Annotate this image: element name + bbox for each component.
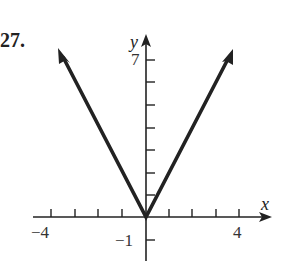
y-tick-label-neg1: −1 (115, 231, 133, 250)
x-tick-label-neg4: −4 (31, 223, 50, 242)
x-axis: x −4 4 (31, 194, 272, 242)
graph: 27. x −4 4 y (0, 0, 288, 276)
x-tick-label-4: 4 (233, 223, 242, 242)
y-axis-label: y (128, 32, 138, 52)
x-axis-label: x (260, 194, 269, 214)
y-axis: y 7 −1 (115, 32, 155, 261)
y-tick-label-7: 7 (131, 50, 140, 69)
problem-number: 27. (0, 29, 25, 51)
